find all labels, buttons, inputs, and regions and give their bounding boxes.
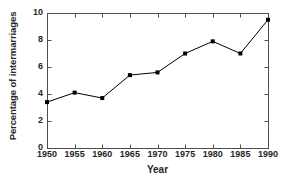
y-tick-label-text: 6 xyxy=(28,62,43,71)
y-tick-label-text: 10 xyxy=(28,8,43,17)
x-tick-label: 1990 xyxy=(248,150,281,159)
y-tick-label: 6 xyxy=(28,62,43,72)
y-tick-label-text: 8 xyxy=(28,35,43,44)
y-axis-label: Percentage of intermarriages xyxy=(6,2,20,150)
y-tick-label: 10 xyxy=(28,8,43,18)
data-series-line xyxy=(47,20,268,102)
axis-tick-marks xyxy=(48,14,269,149)
axis-frame xyxy=(48,14,269,149)
data-series-markers xyxy=(45,18,270,104)
y-tick-label: 8 xyxy=(28,35,43,45)
y-tick-label-text: 2 xyxy=(28,116,43,125)
y-tick-label: 4 xyxy=(28,89,43,99)
y-tick-label-text: 4 xyxy=(28,89,43,98)
x-axis-label: Year xyxy=(47,164,268,175)
y-tick-label: 2 xyxy=(28,116,43,126)
chart-figure: Percentage of intermarriages 0246810 195… xyxy=(0,0,281,182)
